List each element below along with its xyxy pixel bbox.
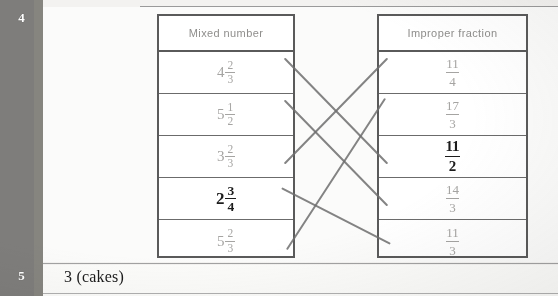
improper-fraction-value: 17 3 bbox=[443, 99, 462, 130]
whole-part: 3 bbox=[217, 148, 225, 165]
question-number-column bbox=[0, 0, 34, 296]
denominator: 4 bbox=[446, 72, 459, 88]
numerator: 14 bbox=[443, 183, 462, 198]
numerator: 11 bbox=[441, 139, 463, 156]
numerator: 11 bbox=[443, 226, 462, 241]
fraction-part: 2 3 bbox=[225, 228, 235, 254]
fraction-part: 2 3 bbox=[225, 60, 235, 86]
numerator: 1 bbox=[225, 102, 235, 115]
improper-fraction-value: 11 3 bbox=[443, 226, 462, 257]
improper-fraction-value: 11 4 bbox=[443, 57, 462, 88]
improper-fraction-table: Improper fraction 11 4 17 3 11 2 14 3 11… bbox=[377, 14, 528, 258]
bottom-rule bbox=[43, 293, 558, 294]
numerator: 2 bbox=[225, 60, 235, 73]
mixed-number-value: 5 1 2 bbox=[217, 102, 235, 128]
table-row: 11 3 bbox=[379, 220, 526, 262]
denominator: 3 bbox=[446, 198, 459, 214]
fraction-part: 3 4 bbox=[225, 184, 236, 214]
denominator: 3 bbox=[225, 72, 235, 86]
improper-fraction-table-header: Improper fraction bbox=[379, 16, 526, 52]
denominator: 2 bbox=[445, 156, 461, 174]
denominator: 3 bbox=[446, 114, 459, 130]
table-row: 17 3 bbox=[379, 94, 526, 136]
row-number-4: 4 bbox=[0, 10, 43, 26]
denominator: 3 bbox=[446, 241, 459, 257]
numerator: 3 bbox=[225, 184, 236, 199]
improper-fraction-value: 14 3 bbox=[443, 183, 462, 214]
mixed-number-table-header: Mixed number bbox=[159, 16, 293, 52]
whole-part: 2 bbox=[216, 189, 225, 209]
table-row: 5 2 3 bbox=[159, 220, 293, 262]
mixed-number-table: Mixed number 4 2 3 5 1 2 3 2 3 bbox=[157, 14, 295, 258]
table-row: 14 3 bbox=[379, 178, 526, 220]
table-row: 2 3 4 bbox=[159, 178, 293, 220]
mixed-number-value: 4 2 3 bbox=[217, 60, 235, 86]
whole-part: 4 bbox=[217, 64, 225, 81]
denominator: 4 bbox=[225, 198, 236, 214]
mixed-number-value: 5 2 3 bbox=[217, 228, 235, 254]
table-row: 11 2 bbox=[379, 136, 526, 178]
row-number-5: 5 bbox=[0, 268, 43, 284]
denominator: 3 bbox=[225, 156, 235, 170]
answer-text-row-5: 3 (cakes) bbox=[64, 268, 124, 286]
table-row: 3 2 3 bbox=[159, 136, 293, 178]
numerator: 2 bbox=[225, 228, 235, 241]
denominator: 3 bbox=[225, 241, 235, 255]
whole-part: 5 bbox=[217, 233, 225, 250]
numerator: 2 bbox=[225, 144, 235, 157]
improper-fraction-value-emphasized: 11 2 bbox=[441, 139, 463, 174]
row-divider-rule bbox=[43, 263, 558, 264]
fraction-part: 1 2 bbox=[225, 102, 235, 128]
table-row: 11 4 bbox=[379, 52, 526, 94]
whole-part: 5 bbox=[217, 106, 225, 123]
mixed-number-value: 3 2 3 bbox=[217, 144, 235, 170]
table-row: 4 2 3 bbox=[159, 52, 293, 94]
numerator: 17 bbox=[443, 99, 462, 114]
question-number-column-shade bbox=[34, 0, 43, 296]
denominator: 2 bbox=[225, 114, 235, 128]
numerator: 11 bbox=[443, 57, 462, 72]
fraction-part: 2 3 bbox=[225, 144, 235, 170]
table-row: 5 1 2 bbox=[159, 94, 293, 136]
mixed-number-value-emphasized: 2 3 4 bbox=[216, 184, 236, 214]
